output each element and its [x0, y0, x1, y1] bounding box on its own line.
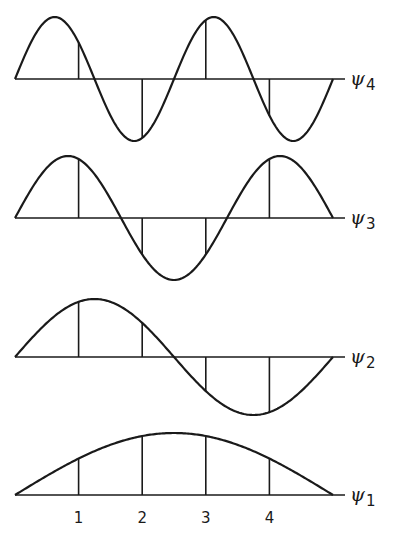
wavefunction-plots: ψ4ψ3ψ2ψ1: [15, 17, 375, 510]
site-tick-labels: 1234: [74, 509, 274, 527]
psi-label: ψ3: [350, 206, 375, 233]
site-tick-label: 2: [137, 509, 147, 527]
site-tick-label: 4: [265, 509, 275, 527]
psi-label: ψ2: [350, 345, 375, 372]
psi-label: ψ1: [350, 483, 375, 510]
wavefunction-diagram: ψ4ψ3ψ2ψ1 1234: [0, 0, 400, 537]
diagram-canvas: ψ4ψ3ψ2ψ1 1234: [0, 0, 400, 537]
wavefunction-1: ψ1: [15, 433, 375, 510]
site-tick-label: 1: [74, 509, 84, 527]
wave-curve: [15, 433, 333, 495]
wavefunction-3: ψ3: [15, 156, 375, 280]
psi-label: ψ4: [350, 67, 375, 94]
wavefunction-4: ψ4: [15, 17, 375, 141]
site-tick-label: 3: [201, 509, 211, 527]
wavefunction-2: ψ2: [15, 299, 375, 415]
